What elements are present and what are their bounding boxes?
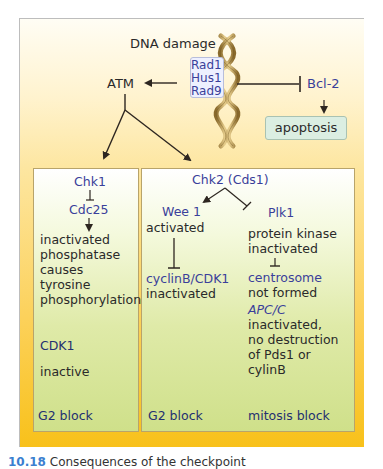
figure-caption-text: Consequences of the checkpoint (50, 455, 246, 469)
sensor-rad9: Rad9 (191, 85, 223, 98)
wee1-label: Wee 1 (162, 204, 201, 219)
cdc25-label: Cdc25 (69, 202, 108, 217)
centrosome-label: centrosome (248, 270, 322, 285)
apc-c-label: APC/C (248, 302, 286, 317)
centrosome-state: not formed (248, 285, 317, 300)
plk1-label: Plk1 (268, 205, 294, 220)
apc-c-effect-text: inactivated, no destruction of Pds1 or c… (248, 317, 338, 377)
wee1-state: activated (146, 220, 205, 235)
cyclinb-cdk1-label: cyclinB/CDK1 (146, 271, 229, 286)
left-outcome-g2-block: G2 block (38, 408, 93, 423)
mitosis-block-outcome: mitosis block (248, 408, 330, 423)
right-outcome-g2-block: G2 block (148, 408, 203, 423)
chk2-label: Chk2 (Cds1) (192, 172, 269, 187)
bcl2-label: Bcl-2 (307, 76, 340, 91)
cdk1-state: inactive (40, 364, 89, 379)
apoptosis-box: apoptosis (265, 116, 347, 140)
plk1-state: protein kinase inactivated (248, 226, 337, 256)
figure-caption: 10.18 Consequences of the checkpoint (8, 455, 246, 469)
cdk1-label: CDK1 (40, 338, 75, 353)
atm-label: ATM (107, 76, 134, 91)
cdc25-effect-text: inactivated phosphatase causes tyrosine … (40, 232, 141, 307)
figure-number: 10.18 (8, 455, 46, 469)
dna-damage-label: DNA damage (130, 36, 216, 51)
sensor-complex-box: Rad1 Hus1 Rad9 (190, 57, 224, 98)
chk1-label: Chk1 (74, 174, 106, 189)
cyclinb-cdk1-state: inactivated (146, 286, 216, 301)
